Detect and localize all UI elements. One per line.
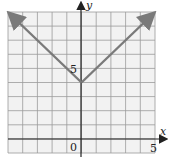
x-axis-label: x [160,125,167,138]
x-tick-five: 5 [150,142,157,155]
y-axis-label: y [85,0,93,12]
graph: y x 0 5 5 [0,0,170,157]
origin-label: 0 [70,141,77,154]
y-tick-five: 5 [70,63,77,76]
